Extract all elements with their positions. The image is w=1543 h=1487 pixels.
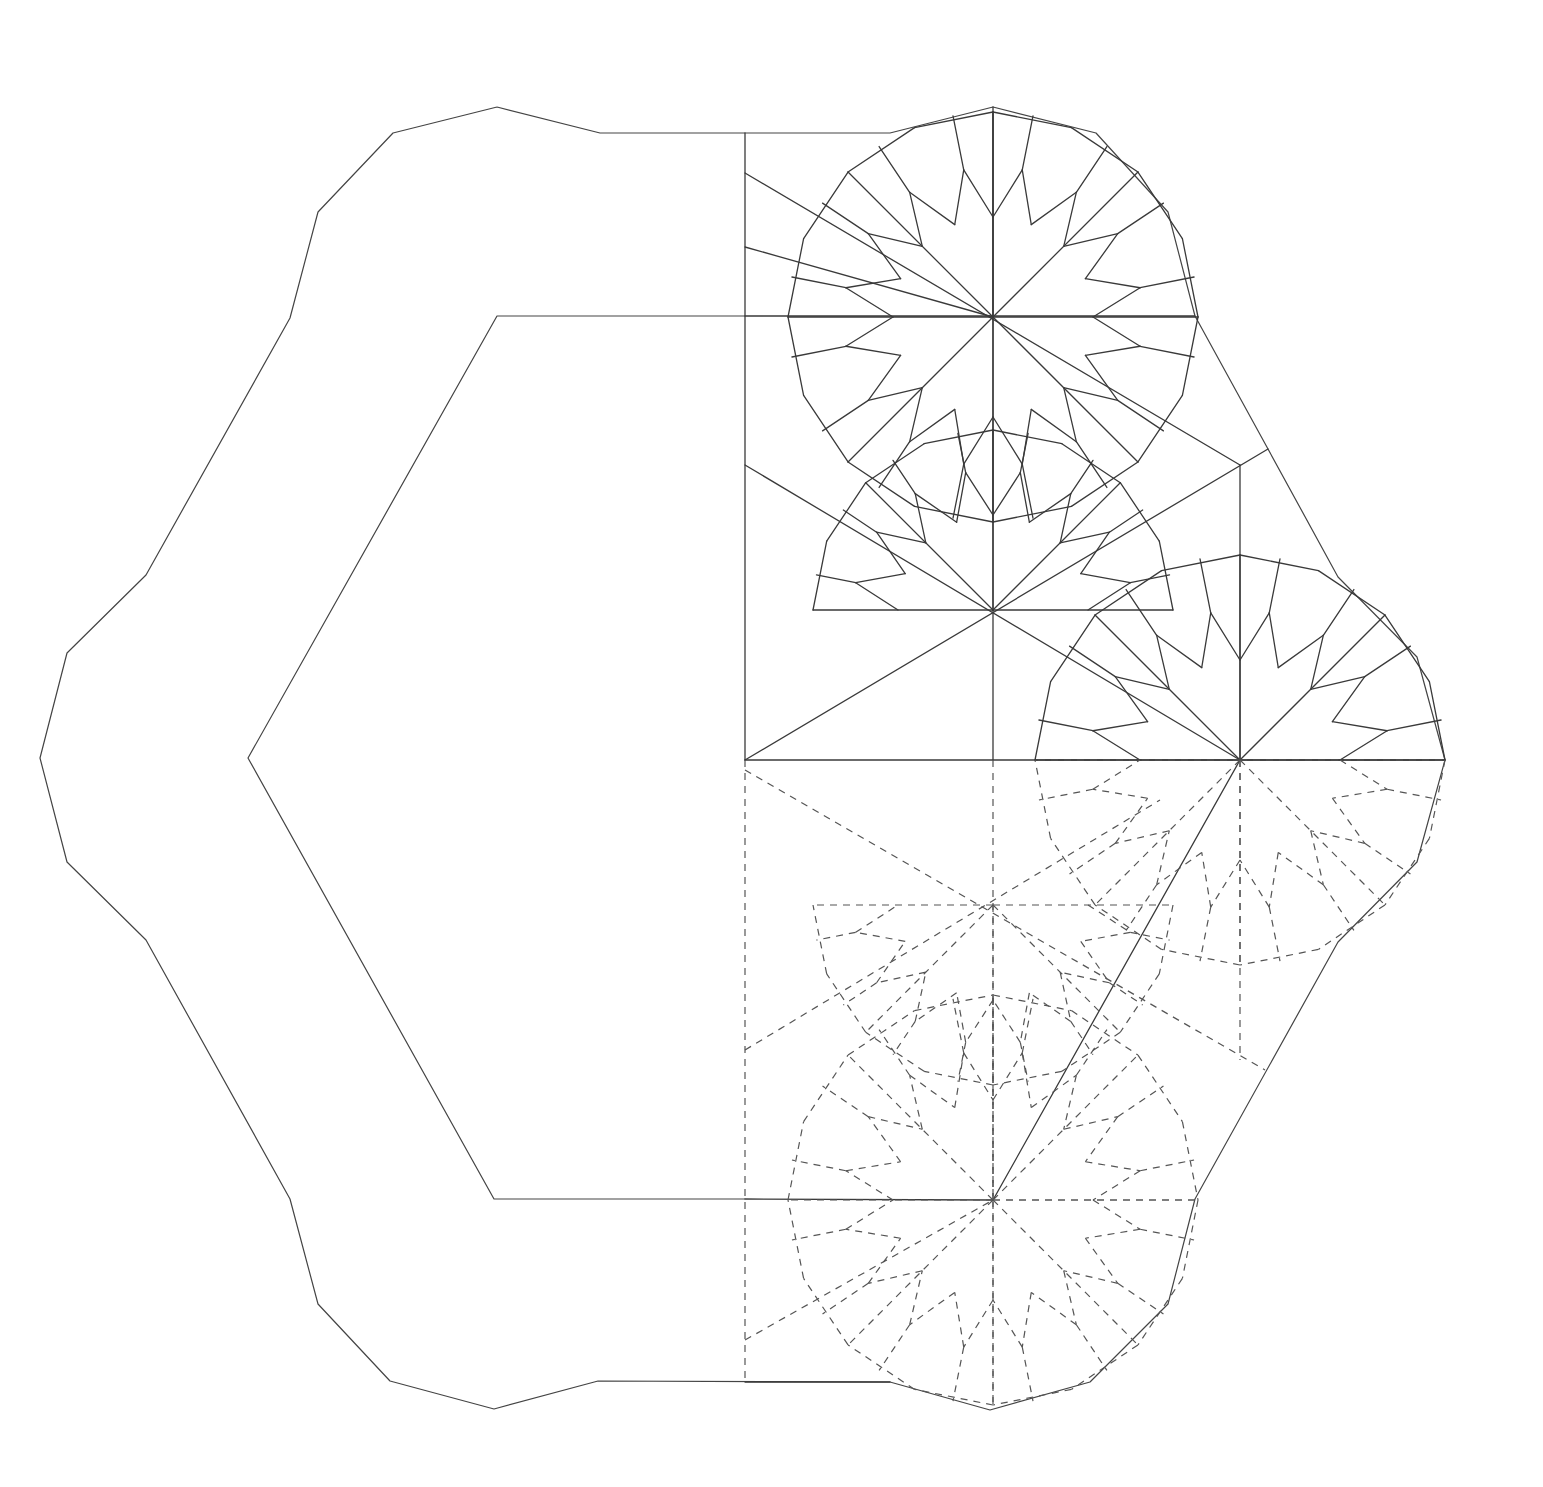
rosette-petal [1202, 852, 1211, 907]
rosette-ray [953, 116, 964, 170]
rosette-petal [1240, 860, 1269, 907]
rosette-spoke [1095, 615, 1240, 760]
rosette-petal [1093, 1171, 1140, 1200]
rosette-spoke [848, 1200, 993, 1345]
rosette-petal [964, 1300, 993, 1347]
rosette-petal [993, 473, 1020, 515]
crease-pattern-figure [0, 0, 1543, 1487]
rosette-petal [1340, 760, 1387, 789]
rosette-petal [1060, 972, 1109, 983]
rosette-rim [1138, 1278, 1182, 1345]
rosette-petal [1093, 731, 1140, 760]
rosette-petal [964, 170, 993, 217]
rosette-ray [1140, 346, 1194, 357]
rosette-petal [1093, 317, 1140, 346]
rosette-petal [955, 170, 964, 225]
rosette-petal [1211, 860, 1240, 907]
rosette-petal [915, 972, 926, 1021]
rosette-petal [1088, 905, 1130, 932]
rosette-spoke [848, 1055, 993, 1200]
rosette-rim [1138, 1055, 1182, 1122]
rosette-petal [1202, 613, 1211, 668]
rosette-ray [1130, 932, 1169, 940]
rosette-rim [993, 1389, 1071, 1405]
rosette-spoke [1240, 615, 1385, 760]
rosette-ray [1323, 885, 1354, 931]
rosette-rim [813, 905, 827, 974]
rosette-rim [1385, 838, 1429, 905]
valley-folds [745, 760, 1265, 1410]
rosette-ray [823, 1283, 869, 1314]
rosette-ray [1387, 720, 1441, 731]
rosette-petal [1269, 852, 1278, 907]
rosette-petal [1060, 972, 1071, 1021]
rosette-petal [964, 417, 993, 464]
rosette-spoke [993, 317, 1138, 462]
rosette-ray [1130, 575, 1169, 583]
rosette-petal [993, 1000, 1020, 1042]
rosette-spoke [1240, 760, 1385, 905]
rosette-petal [856, 905, 898, 932]
rosette-petal [1269, 613, 1278, 668]
rosette-ray [1022, 1347, 1033, 1401]
rosette-ray [1269, 559, 1280, 613]
rosette-ray [1118, 203, 1164, 234]
rosette-ray [958, 433, 966, 472]
rosette-petal [1029, 993, 1070, 1022]
rosette-rim [1182, 1122, 1198, 1200]
rosette-rim [827, 974, 866, 1032]
rosette-ray [893, 1021, 915, 1054]
rosette-spoke [866, 905, 993, 1032]
rosette-ray [1200, 559, 1211, 613]
rosette-petal [1340, 731, 1387, 760]
rosette-rim [788, 1122, 804, 1200]
rosette-spoke [993, 483, 1120, 610]
rosette-petal [856, 932, 906, 941]
rosette-rim [866, 1032, 924, 1071]
rosette-rim [1062, 1032, 1120, 1071]
rosette-ray [1118, 1086, 1164, 1117]
rosette-petal [1093, 789, 1148, 798]
rosette-ray [1020, 433, 1028, 472]
rosette-petal [957, 993, 966, 1043]
rosette-spoke [1095, 760, 1240, 905]
rosette-ray [1387, 789, 1441, 800]
rosette-ray [792, 277, 846, 288]
rosette-spoke [848, 317, 993, 462]
rosette-ray [879, 1325, 910, 1371]
rosette-petal [1332, 789, 1387, 798]
rosette-ray [953, 1347, 964, 1401]
rosette-ray [1076, 147, 1107, 193]
rosette-petal [966, 473, 993, 515]
rosette-rim [993, 995, 1071, 1011]
rosette-petal [877, 972, 926, 983]
rosette-petal [915, 494, 926, 543]
rosette-rim [924, 1071, 993, 1085]
rosette-ray [792, 1160, 846, 1171]
rosette-spoke [993, 905, 1120, 1032]
rosette-petal [846, 346, 901, 355]
rosette-spoke [848, 172, 993, 317]
rosette-rim [915, 995, 993, 1011]
rosette-ray [792, 346, 846, 357]
rosette-petal [993, 417, 1022, 464]
rosette-ray [1323, 590, 1354, 636]
outer-outline-path [40, 107, 1445, 1410]
rosette-spoke [993, 1200, 1138, 1345]
inner-hexagon [248, 316, 745, 1199]
rosette-rim [1095, 905, 1162, 949]
rosette-petal [993, 1300, 1022, 1347]
rosette-petal [1060, 494, 1071, 543]
rosette-spoke [993, 172, 1138, 317]
rosette-ray [893, 460, 915, 493]
rosette-rim [788, 1200, 804, 1278]
rosette-petal [856, 583, 898, 610]
rosette-ray [1118, 1283, 1164, 1314]
rosette-petal [877, 532, 926, 543]
rosette-ray [823, 1086, 869, 1117]
rosette-ray [816, 932, 855, 940]
rosette-petal [1085, 1162, 1140, 1171]
rosette-petal [1093, 1200, 1140, 1229]
rosette-petal [846, 317, 893, 346]
rosette-ray [1109, 983, 1142, 1005]
